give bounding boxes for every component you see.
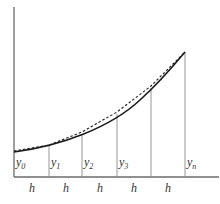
label-h-2: h: [63, 181, 69, 195]
label-yn: yn: [186, 155, 196, 171]
label-h-1: h: [29, 181, 35, 195]
label-y3: y3: [118, 155, 128, 171]
label-h-3: h: [97, 181, 103, 195]
label-h-5: h: [165, 181, 171, 195]
label-y2: y2: [83, 155, 93, 171]
trapezoid-rule-diagram: y0 y1 y2 y3 yn h h h h h: [0, 0, 220, 204]
label-y0: y0: [15, 155, 25, 171]
function-curve: [14, 52, 185, 152]
label-h-4: h: [131, 181, 137, 195]
label-y1: y1: [50, 155, 60, 171]
trapezoid-chords: [14, 52, 185, 151]
